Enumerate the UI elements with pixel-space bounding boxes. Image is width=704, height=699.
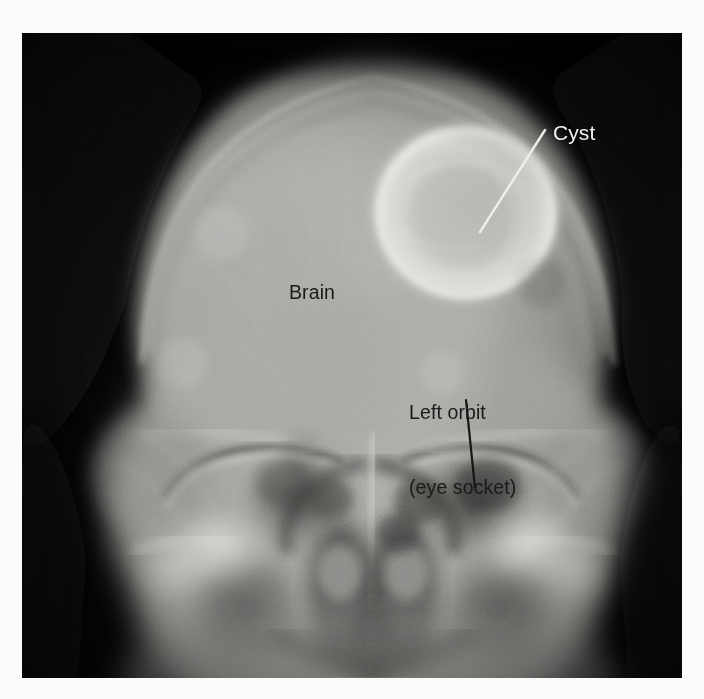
- annotation-label-cyst: Cyst: [553, 121, 595, 145]
- annotation-label-brain: Brain: [289, 281, 335, 304]
- page-canvas: Cyst Brain Left orbit (eye socket): [0, 0, 704, 699]
- annotation-label-left-orbit-line1: Left orbit: [409, 400, 516, 425]
- annotation-label-left-orbit: Left orbit (eye socket): [409, 350, 516, 550]
- annotation-label-left-orbit-line2: (eye socket): [409, 475, 516, 500]
